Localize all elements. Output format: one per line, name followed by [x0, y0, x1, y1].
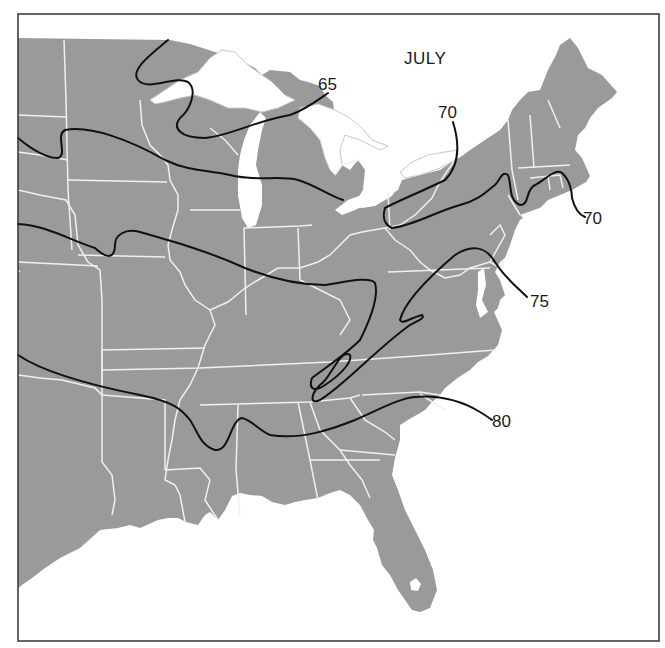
isotherm-70-label-east: 70: [583, 209, 602, 228]
isotherm-70-label-north: 70: [438, 103, 457, 122]
map-title: JULY: [404, 49, 446, 68]
isotherm-75-label: 75: [530, 292, 549, 311]
isotherm-map: 65 70 70 75 80 JULY: [0, 0, 665, 648]
isotherm-65-label: 65: [318, 75, 337, 94]
isotherm-80-label: 80: [492, 412, 511, 431]
map-canvas: 65 70 70 75 80 JULY: [0, 0, 665, 648]
